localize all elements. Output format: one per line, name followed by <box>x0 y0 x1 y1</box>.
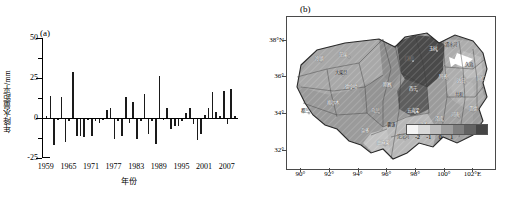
region-label: 共和 <box>455 91 463 97</box>
bar <box>65 118 67 142</box>
colorbar-swatch <box>453 125 464 134</box>
y-tick-label: 25 <box>0 73 38 82</box>
bar <box>197 118 199 140</box>
panel-a-precipitation-anomaly: (a) 年降水量距平/mm -2502550 19591965197119771… <box>0 0 258 204</box>
region-label: 格尔木 <box>327 99 339 105</box>
colorbar-swatch <box>464 125 475 134</box>
longitude-tick <box>444 168 445 172</box>
bar <box>212 92 214 118</box>
qinghai-province-map <box>287 17 495 169</box>
latitude-tick-label: 36° <box>254 72 284 80</box>
bar <box>166 108 168 118</box>
region-label: 达日 <box>457 77 465 83</box>
region-label: 德令哈 <box>345 83 357 89</box>
bar <box>106 110 108 118</box>
longitude-tick <box>358 168 359 172</box>
region-label: 泽库 <box>435 115 443 121</box>
longitude-tick <box>386 168 387 172</box>
region-label: 囊谦 <box>387 121 395 127</box>
map-frame: 冷湖茫崖大柴旦德令哈格尔木都兰乌兰刚察门源西宁五道梁沱沱河曲麻莱玉树清水河玛多达… <box>286 16 496 170</box>
bar <box>53 118 55 145</box>
region-label: 杂多 <box>361 127 369 133</box>
bar <box>83 118 85 137</box>
bar <box>132 102 134 118</box>
y-tick-label: 0 <box>0 113 38 122</box>
region-label: 西宁 <box>409 85 417 91</box>
colorbar-swatch <box>476 125 487 134</box>
colorbar-swatch <box>418 125 429 134</box>
bar <box>170 118 172 129</box>
bar <box>223 91 225 118</box>
longitude-tick <box>472 168 473 172</box>
bar <box>136 118 138 139</box>
bar <box>125 97 127 118</box>
bar <box>230 89 232 118</box>
latitude-tick-label: 32° <box>254 146 284 154</box>
bar <box>189 108 191 118</box>
region-label: 乌兰 <box>371 107 379 113</box>
longitude-tick <box>329 168 330 172</box>
x-tick-label: 2007 <box>214 162 240 171</box>
colorbar-tick-label: 1 <box>445 134 459 140</box>
region-label: 茫崖 <box>339 51 347 57</box>
bar <box>148 118 150 134</box>
bar <box>91 118 93 136</box>
region-label: 冷湖 <box>315 55 323 61</box>
bar <box>80 118 82 136</box>
colorbar-swatch <box>430 125 441 134</box>
region-label: 贵德 <box>469 105 477 111</box>
latitude-tick-label: 34° <box>254 109 284 117</box>
bar <box>50 96 52 118</box>
region-label: 玛多 <box>439 73 447 79</box>
bar <box>155 118 157 144</box>
region-label: 同仁 <box>477 75 485 81</box>
map-canvas: 冷湖茫崖大柴旦德令哈格尔木都兰乌兰刚察门源西宁五道梁沱沱河曲麻莱玉树清水河玛多达… <box>287 17 495 169</box>
latitude-tick <box>282 150 286 151</box>
zero-baseline <box>42 118 238 119</box>
bar <box>159 76 161 118</box>
region-label: 河南 <box>451 111 459 117</box>
figure-container: (a) 年降水量距平/mm -2502550 19591965197119771… <box>0 0 518 204</box>
y-axis-title: 年降水量距平/mm <box>2 52 13 152</box>
region-label: 五道梁 <box>407 107 419 113</box>
bar <box>114 118 116 139</box>
longitude-tick <box>300 168 301 172</box>
region-label: 刚察 <box>383 81 391 87</box>
panel-b-label: (b) <box>300 4 311 14</box>
map-regions <box>287 17 495 169</box>
panel-b-spatial-map: (b) <box>258 0 518 204</box>
latitude-tick <box>282 76 286 77</box>
y-tick-label: 50 <box>0 33 38 42</box>
bar <box>200 118 202 134</box>
longitude-tick <box>415 168 416 172</box>
bar <box>61 97 63 118</box>
panel-a-label: (a) <box>40 28 50 38</box>
region-label: 门源 <box>405 55 413 61</box>
region-label: 大柴旦 <box>335 69 347 75</box>
region-label: 曲麻莱 <box>377 139 389 145</box>
colorbar-swatch <box>407 125 418 134</box>
bar <box>208 108 210 118</box>
bar <box>144 94 146 118</box>
region-label: 玉树 <box>429 45 437 51</box>
region-label: 久治 <box>465 61 473 67</box>
bar <box>110 108 112 118</box>
bar <box>178 118 180 126</box>
region-label: 都兰 <box>301 107 309 113</box>
bar <box>72 72 74 118</box>
colorbar-swatch <box>441 125 452 134</box>
latitude-tick-label: 38°N <box>254 36 284 44</box>
bar <box>174 118 176 126</box>
bar-plot-area <box>42 38 238 158</box>
bar <box>121 118 123 136</box>
bar <box>76 118 78 136</box>
latitude-tick <box>282 113 286 114</box>
latitude-tick <box>282 40 286 41</box>
x-axis-title: 年份 <box>0 175 258 186</box>
region-label: 清水河 <box>445 41 457 47</box>
y-tick-label: -25 <box>0 153 38 162</box>
